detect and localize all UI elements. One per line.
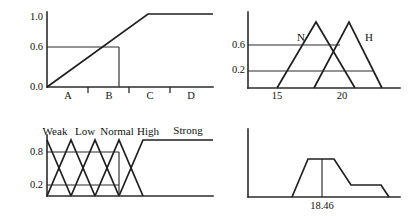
bottom-left-label-Weak: Weak [43, 125, 68, 137]
bottom-left-ytick-0.2: 0.2 [30, 179, 43, 190]
top-left-ytick-0.0: 0.0 [30, 81, 43, 92]
panel-top-left: 1.0 0.6 0.0 A B C D [30, 11, 213, 101]
bottom-right-centroid-label: 18.46 [310, 200, 334, 211]
top-right-xtick-15: 15 [272, 90, 283, 101]
bottom-left-set-Normal [71, 140, 119, 196]
top-left-membership-curve [47, 14, 213, 87]
top-right-ytick-0.2: 0.2 [232, 64, 245, 75]
bottom-right-aggregated-output [292, 159, 389, 197]
top-right-xtick-20: 20 [337, 90, 348, 101]
bottom-left-label-Low: Low [75, 125, 95, 137]
bottom-left-label-Strong: Strong [173, 124, 203, 136]
top-left-xtick-D: D [187, 90, 195, 101]
bottom-left-set-Strong [119, 140, 213, 196]
fuzzy-inference-figure: 1.0 0.6 0.0 A B C D 0.6 0.2 [0, 0, 413, 219]
top-left-ytick-1.0: 1.0 [30, 11, 43, 22]
figure-canvas: 1.0 0.6 0.0 A B C D 0.6 0.2 [0, 0, 413, 219]
bottom-left-set-Low [47, 140, 95, 196]
top-left-xtick-B: B [105, 90, 112, 101]
panel-bottom-left: 0.8 0.2 Weak Low Normal High Strong [30, 124, 213, 196]
top-left-xtick-C: C [146, 90, 153, 101]
panel-top-right: 0.6 0.2 15 20 N H [232, 12, 400, 101]
top-left-xtick-A: A [64, 90, 72, 101]
top-right-label-N: N [297, 31, 305, 43]
bottom-left-label-Normal: Normal [100, 125, 134, 137]
top-right-label-H: H [365, 31, 373, 43]
bottom-left-ytick-0.8: 0.8 [30, 146, 43, 157]
panel-bottom-right: 18.46 [248, 129, 400, 211]
top-right-ytick-0.6: 0.6 [232, 39, 245, 50]
bottom-left-label-High: High [137, 125, 160, 137]
top-left-ytick-0.6: 0.6 [30, 41, 43, 52]
